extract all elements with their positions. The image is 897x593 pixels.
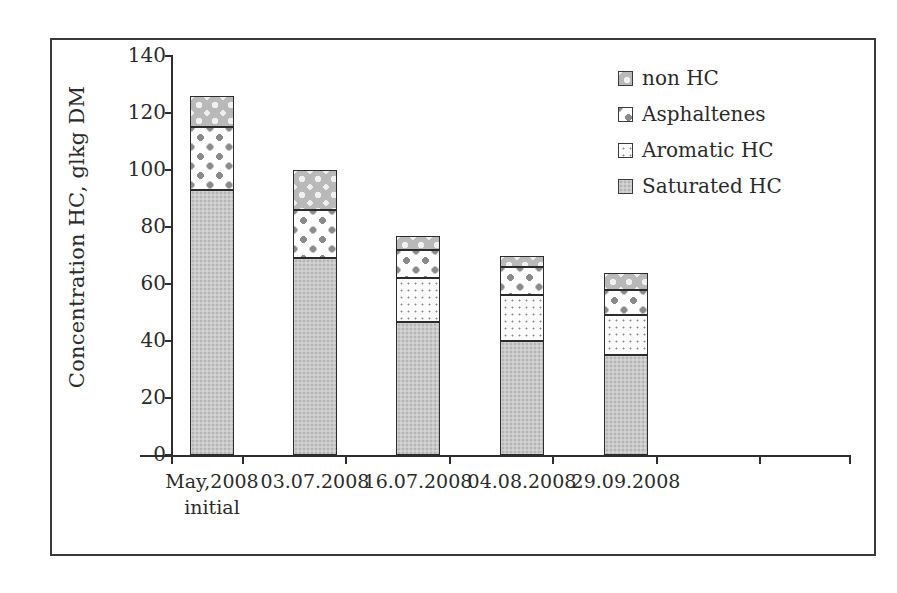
y-tick-label: 80 [120,216,166,236]
y-tick-label-wrap: 100 [106,159,166,179]
legend-swatch-icon [618,107,633,122]
x-tick-mark [759,455,761,464]
bar-segment [500,295,544,341]
bar-segment [604,355,648,455]
x-category-label-line: 29.09.2008 [541,468,711,494]
stacked-bar-chart: Concentration HC, glkg DM 02040608010012… [0,0,897,593]
y-tick-label-wrap: 140 [106,45,166,65]
bar-segment [293,170,337,210]
x-category-label: 29.09.2008 [541,468,711,494]
x-tick-mark [449,455,451,464]
x-axis-line [140,455,850,457]
x-category-label-line: initial [127,494,297,520]
legend-label: Saturated HC [642,174,782,198]
bar-segment [500,256,544,267]
x-tick-mark [849,455,851,464]
y-tick-label-wrap: 20 [106,387,166,407]
x-tick-mark [552,455,554,464]
bar-segment [293,210,337,258]
legend-label: non HC [642,66,719,90]
y-tick-mark [165,340,173,342]
y-tick-mark [165,397,173,399]
y-tick-label: 40 [120,330,166,350]
legend-swatch-icon [618,143,633,158]
bar-segment [190,127,234,190]
bar-segment [396,250,440,279]
y-tick-mark [165,112,173,114]
bar-stack [500,0,544,455]
bar-segment [500,267,544,296]
chart-legend: non HCAsphaltenesAromatic HCSaturated HC [618,60,848,204]
y-tick-label-wrap: 120 [106,102,166,122]
legend-item[interactable]: non HC [618,60,848,96]
x-tick-mark [171,455,173,464]
y-tick-label: 60 [120,273,166,293]
legend-swatch-icon [618,179,633,194]
y-tick-label-wrap: 40 [106,330,166,350]
bar-stack [396,0,440,455]
bar-segment [190,190,234,455]
y-tick-label-wrap: 0 [106,444,166,464]
bar-segment [396,322,440,455]
legend-item[interactable]: Aromatic HC [618,132,848,168]
bar-segment [604,290,648,316]
bar-segment [190,96,234,127]
bar-segment [604,273,648,290]
y-tick-mark [165,283,173,285]
bar-segment [604,315,648,355]
legend-swatch-icon [618,71,633,86]
bar-stack [293,0,337,455]
x-tick-mark [656,455,658,464]
y-tick-mark [165,226,173,228]
y-tick-mark [165,55,173,57]
y-tick-label-wrap: 60 [106,273,166,293]
legend-label: Asphaltenes [642,102,766,126]
legend-item[interactable]: Saturated HC [618,168,848,204]
y-tick-mark [165,169,173,171]
y-tick-label: 140 [120,45,166,65]
legend-item[interactable]: Asphaltenes [618,96,848,132]
x-tick-mark [345,455,347,464]
bar-stack [190,0,234,455]
x-tick-mark [242,455,244,464]
y-tick-label-wrap: 80 [106,216,166,236]
y-tick-label: 120 [120,102,166,122]
bar-segment [396,278,440,322]
y-axis-title: Concentration HC, glkg DM [65,77,89,397]
bar-segment [500,341,544,455]
legend-label: Aromatic HC [642,138,774,162]
y-tick-label: 100 [120,159,166,179]
y-tick-label: 0 [120,444,166,464]
bar-segment [293,258,337,455]
y-tick-label: 20 [120,387,166,407]
bar-segment [396,236,440,250]
